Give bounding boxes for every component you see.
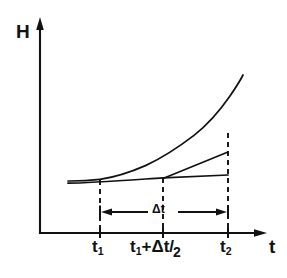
t1-subscript: 1 [98, 245, 104, 257]
mid-base: t [130, 237, 136, 256]
x-tick-label-t2: t2 [220, 238, 232, 255]
x-tick-label-t1: t1 [92, 238, 104, 255]
mid-delta: Δ [151, 237, 163, 256]
arrow-up-icon [36, 17, 44, 30]
dim-arrow-right-icon [216, 209, 227, 216]
mid-subscript: 1 [136, 245, 142, 257]
x-axis-label: t [269, 237, 275, 256]
baseline-shallow-line [68, 175, 228, 183]
t2-base: t [220, 237, 226, 256]
midpoint-tangent-line [163, 152, 228, 179]
t2-subscript: 2 [226, 245, 232, 257]
arrow-right-icon [254, 229, 267, 237]
interval-label-delta-t: Δt [152, 203, 165, 215]
y-axis-label: H [16, 22, 30, 41]
x-tick-label-midpoint: t1+Δt/2 [130, 238, 182, 255]
t1-base: t [92, 237, 98, 256]
mid-denominator: 2 [173, 244, 181, 260]
figure-container: H t t1 t1+Δt/2 t2 Δt [0, 0, 287, 278]
exponential-growth-curve [68, 75, 243, 181]
mid-plus: + [142, 237, 152, 256]
dim-arrow-left-icon [101, 209, 112, 216]
